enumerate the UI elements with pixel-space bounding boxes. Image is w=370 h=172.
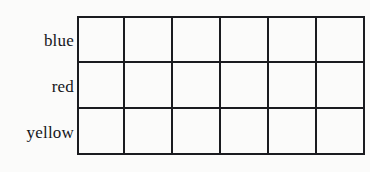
grid-cell[interactable] <box>271 63 317 107</box>
row-label-blue: blue <box>0 32 74 49</box>
row-label-yellow: yellow <box>0 124 74 141</box>
grid-cell[interactable] <box>127 18 173 61</box>
grid-cell[interactable] <box>175 109 221 153</box>
grid-cell[interactable] <box>223 18 269 61</box>
grid-table <box>77 16 365 155</box>
row-label-red: red <box>0 78 74 95</box>
grid-cell[interactable] <box>79 18 125 61</box>
grid-line-vertical-2 <box>171 16 173 155</box>
grid-cell[interactable] <box>319 63 365 107</box>
grid-line-horizontal-1 <box>77 61 365 63</box>
grid-cell[interactable] <box>271 109 317 153</box>
grid-line-vertical-3 <box>219 16 221 155</box>
color-grid-figure: blue red yellow <box>0 0 370 172</box>
grid-line-vertical-1 <box>123 16 125 155</box>
grid-line-vertical-left <box>77 16 79 155</box>
grid-line-vertical-5 <box>315 16 317 155</box>
grid-cell[interactable] <box>271 18 317 61</box>
grid-cell[interactable] <box>127 63 173 107</box>
grid-line-horizontal-top <box>77 16 365 18</box>
grid-cell[interactable] <box>79 63 125 107</box>
grid-cell[interactable] <box>79 109 125 153</box>
grid-cell[interactable] <box>175 18 221 61</box>
grid-cell[interactable] <box>223 63 269 107</box>
grid-line-vertical-4 <box>267 16 269 155</box>
grid-line-horizontal-2 <box>77 107 365 109</box>
grid-line-vertical-right <box>363 16 365 155</box>
grid-cell[interactable] <box>319 109 365 153</box>
grid-line-horizontal-bottom <box>77 153 365 155</box>
grid-cell[interactable] <box>223 109 269 153</box>
grid-cell[interactable] <box>319 18 365 61</box>
grid-cell[interactable] <box>175 63 221 107</box>
grid-cell[interactable] <box>127 109 173 153</box>
